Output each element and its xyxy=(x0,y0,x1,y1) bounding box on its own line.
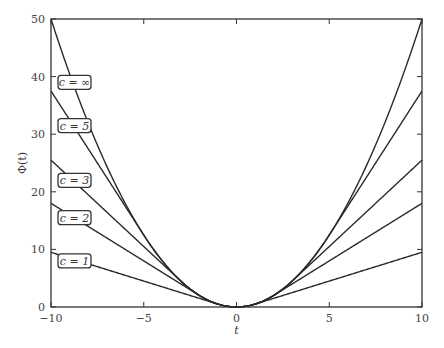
curve-label: c = 3 xyxy=(58,173,91,187)
y-tick-label: 40 xyxy=(31,71,45,84)
svg-text:c = ∞: c = ∞ xyxy=(59,76,91,89)
svg-text:c = 5: c = 5 xyxy=(60,120,89,133)
svg-text:c = 1: c = 1 xyxy=(60,255,89,268)
curve-line xyxy=(51,91,422,307)
curve-line xyxy=(51,160,422,307)
y-tick-label: 30 xyxy=(31,128,45,141)
svg-text:c = 3: c = 3 xyxy=(60,174,89,187)
y-tick-label: 20 xyxy=(31,186,45,199)
y-tick-label: 50 xyxy=(31,13,45,26)
curve-line xyxy=(51,19,422,307)
chart: −10−5051001020304050 c = ∞c = 5c = 3c = … xyxy=(0,0,444,348)
plot-frame xyxy=(51,19,422,307)
y-axis-label: Φ(t) xyxy=(16,152,29,174)
svg-text:c = 2: c = 2 xyxy=(60,212,89,225)
x-tick-label: 10 xyxy=(415,312,429,325)
x-tick-label: −5 xyxy=(136,312,152,325)
curve-label: c = ∞ xyxy=(58,75,91,89)
x-tick-label: 5 xyxy=(326,312,333,325)
curve-line xyxy=(51,203,422,307)
x-axis-label: t xyxy=(234,324,239,337)
y-tick-label: 10 xyxy=(31,243,45,256)
y-tick-label: 0 xyxy=(38,301,45,314)
curve-label: c = 2 xyxy=(58,211,91,225)
curve-line xyxy=(51,252,422,307)
axis-ticks: −10−5051001020304050 xyxy=(31,13,429,325)
curve-label: c = 1 xyxy=(58,254,91,268)
curves xyxy=(51,19,422,307)
curve-label: c = 5 xyxy=(58,119,91,133)
